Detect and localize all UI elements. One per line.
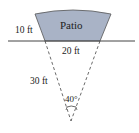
angle-arc (67, 106, 76, 107)
chord-label: 20 ft (62, 46, 80, 56)
patio-label: Patio (60, 19, 83, 31)
inner-radius-label: 10 ft (15, 25, 33, 35)
angle-tick-right (76, 107, 77, 110)
angle-label: 40° (65, 94, 78, 104)
angle-tick-left (66, 107, 67, 110)
outer-radius-label: 30 ft (30, 76, 48, 86)
patio-diagram: Patio 10 ft 20 ft 30 ft 40° (0, 0, 139, 133)
